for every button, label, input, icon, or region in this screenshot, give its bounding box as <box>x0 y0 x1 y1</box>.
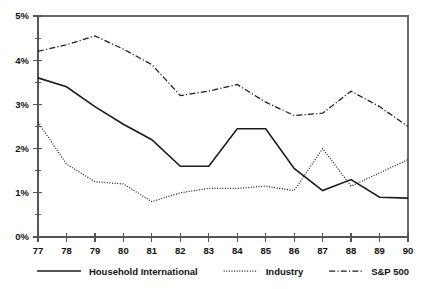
legend-label: Industry <box>266 266 304 277</box>
y-tick-label: 0% <box>15 231 29 242</box>
legend-item: Household International <box>37 266 198 277</box>
x-tick-label: 77 <box>33 245 44 256</box>
line-chart: 0%1%2%3%4%5% 777879808182838485868788899… <box>0 0 424 289</box>
x-tick-label: 83 <box>203 245 214 256</box>
x-tick-label: 89 <box>374 245 385 256</box>
y-axis-labels: 0%1%2%3%4%5% <box>15 10 29 242</box>
x-tick-label: 81 <box>147 245 158 256</box>
x-tick-label: 90 <box>403 245 414 256</box>
chart-legend: Household InternationalIndustryS&P 500 <box>37 266 409 277</box>
x-tick-label: 88 <box>346 245 357 256</box>
x-axis-labels: 7778798081828384858687888990 <box>33 245 414 256</box>
chart-canvas: 0%1%2%3%4%5% 777879808182838485868788899… <box>0 0 424 289</box>
x-tick-label: 80 <box>118 245 129 256</box>
x-tick-label: 86 <box>289 245 300 256</box>
x-tick-label: 82 <box>175 245 186 256</box>
y-tick-label: 5% <box>15 10 29 21</box>
legend-item: S&P 500 <box>329 266 409 277</box>
x-tick-label: 85 <box>260 245 271 256</box>
legend-label: Household International <box>89 266 198 277</box>
y-tick-label: 3% <box>15 99 29 110</box>
y-tick-label: 1% <box>15 187 29 198</box>
plot-border <box>38 16 408 237</box>
legend-label: S&P 500 <box>371 266 409 277</box>
series-lines <box>38 36 408 202</box>
legend-item: Industry <box>224 266 304 277</box>
x-tick-label: 84 <box>232 245 243 256</box>
y-tick-label: 2% <box>15 143 29 154</box>
x-tick-label: 78 <box>61 245 72 256</box>
series-line-household-international <box>38 78 408 198</box>
x-tick-label: 79 <box>90 245 101 256</box>
series-line-industry <box>38 122 408 202</box>
series-line-s-p-500 <box>38 36 408 127</box>
y-tick-label: 4% <box>15 55 29 66</box>
plot-frame <box>38 16 408 237</box>
x-tick-label: 87 <box>317 245 328 256</box>
